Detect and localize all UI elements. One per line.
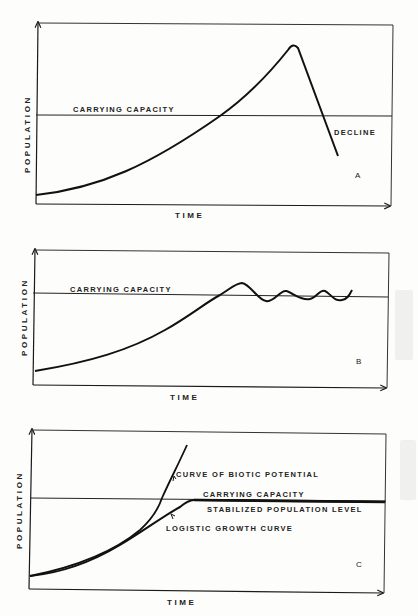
top-border <box>38 23 393 25</box>
carrying-capacity-label: CARRYING CAPACITY <box>70 285 172 294</box>
carrying-capacity-label: CARRYING CAPACITY <box>73 105 175 114</box>
y-axis-label: POPULATION <box>23 95 32 173</box>
right-border <box>384 434 386 593</box>
x-axis <box>33 385 386 388</box>
carrying-capacity-line <box>36 115 392 116</box>
stabilized-level-label: STABILIZED POPULATION LEVEL <box>207 505 363 514</box>
biotic-potential-label: CURVE OF BIOTIC POTENTIAL <box>176 470 319 479</box>
panel-a: CARRYING CAPACITY DECLINE A TIME POPULAT… <box>23 22 393 220</box>
x-axis-label: TIME <box>167 598 197 607</box>
figure-canvas: CARRYING CAPACITY DECLINE A TIME POPULAT… <box>0 0 418 616</box>
x-axis-label: TIME <box>170 393 200 402</box>
panel-c: CURVE OF BIOTIC POTENTIAL CARRYING CAPAC… <box>15 429 386 607</box>
carrying-capacity-label: CARRYING CAPACITY <box>203 490 305 499</box>
x-axis-label: TIME <box>175 211 205 220</box>
y-axis-label: POPULATION <box>15 471 24 549</box>
population-curve <box>36 45 338 195</box>
pointer-tick-icon <box>171 514 175 519</box>
y-axis <box>29 429 32 589</box>
top-border <box>32 430 386 434</box>
right-border <box>387 253 389 388</box>
y-axis <box>36 22 38 204</box>
x-axis <box>36 204 390 206</box>
top-border <box>35 250 389 253</box>
panel-label: B <box>356 357 361 366</box>
x-axis <box>29 589 383 593</box>
panel-label: C <box>356 560 362 569</box>
panel-label: A <box>355 171 361 180</box>
decline-label: DECLINE <box>334 128 376 137</box>
y-axis-label: POPULATION <box>20 278 29 356</box>
y-axis <box>33 249 35 385</box>
panel-b: CARRYING CAPACITY B TIME POPULATION <box>20 249 389 402</box>
biotic-potential-curve <box>30 445 187 576</box>
logistic-growth-label: LOGISTIC GROWTH CURVE <box>166 524 293 533</box>
